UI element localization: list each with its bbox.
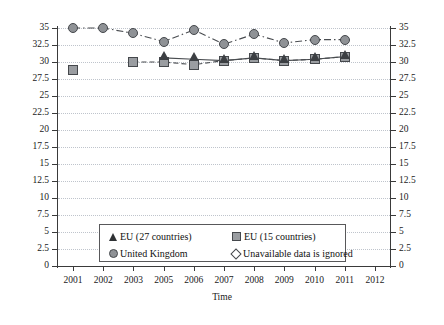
y-axis-tick-label-left: 12.5 [32, 176, 49, 186]
chart-container: 353532.532.5303027.527.5252522.522.52020… [0, 0, 444, 325]
legend-label-uk: United Kingdom [120, 248, 188, 259]
y-axis-tick-label-left: 20 [40, 125, 50, 135]
y-tick-right [391, 232, 396, 233]
x-tick [375, 267, 376, 271]
legend-entry-uk: United Kingdom [106, 248, 229, 259]
y-tick-right [391, 28, 396, 29]
y-tick-right [391, 215, 396, 216]
y-axis-tick-label-left: 2.5 [37, 244, 49, 254]
y-tick-right [391, 181, 396, 182]
legend-label-eu15: EU (15 countries) [244, 231, 316, 242]
y-axis-tick-label-right: 30 [399, 57, 409, 67]
y-axis-tick-label-right: 12.5 [399, 176, 416, 186]
y-axis-tick-label-left: 32.5 [32, 40, 49, 50]
y-tick-right [391, 79, 396, 80]
data-point-square [68, 65, 78, 75]
y-axis-tick-label-right: 5 [399, 227, 404, 237]
legend-label-unavailable: Unavailable data is ignored [243, 248, 353, 259]
data-point-square [128, 57, 138, 67]
y-tick-right [391, 62, 396, 63]
x-axis-line [57, 266, 391, 267]
y-axis-tick-label-right: 22.5 [399, 108, 416, 118]
legend-label-eu27: EU (27 countries) [120, 231, 192, 242]
data-point-circle [340, 35, 350, 45]
y-tick-right [391, 45, 396, 46]
y-tick-right [391, 130, 396, 131]
y-axis-tick-label-left: 17.5 [32, 142, 49, 152]
x-tick [254, 267, 255, 271]
data-point-triangle [249, 51, 259, 60]
y-axis-tick-label-right: 0 [399, 261, 404, 271]
y-axis-right-line [390, 26, 391, 268]
data-point-triangle [310, 52, 320, 61]
y-axis-tick-label-left: 27.5 [32, 74, 49, 84]
triangle-icon [106, 233, 120, 241]
y-axis-tick-label-left: 30 [40, 57, 50, 67]
x-axis-tick-label: 2012 [355, 276, 395, 286]
y-axis-tick-label-left: 15 [40, 159, 50, 169]
y-axis-tick-label-left: 5 [44, 227, 49, 237]
y-axis-tick-label-left: 10 [40, 193, 50, 203]
y-axis-tick-label-right: 27.5 [399, 74, 416, 84]
gridline [58, 79, 390, 80]
data-point-triangle [279, 54, 289, 63]
y-tick-right [391, 198, 396, 199]
data-point-circle [128, 28, 138, 38]
y-axis-tick-label-right: 17.5 [399, 142, 416, 152]
y-axis-tick-label-right: 7.5 [399, 210, 411, 220]
y-axis-tick-label-left: 25 [40, 91, 50, 101]
y-axis-tick-label-right: 35 [399, 23, 409, 33]
x-tick [194, 267, 195, 271]
y-axis-tick-label-left: 7.5 [37, 210, 49, 220]
gridline [58, 96, 390, 97]
y-axis-tick-label-left: 35 [40, 23, 50, 33]
y-tick-right [391, 164, 396, 165]
data-point-circle [98, 23, 108, 33]
y-axis-tick-label-right: 10 [399, 193, 409, 203]
chart-legend: EU (27 countries) EU (15 countries) Unit… [99, 224, 346, 262]
x-axis-title: Time [0, 292, 444, 302]
gridline [58, 147, 390, 148]
square-icon [230, 232, 244, 241]
x-tick [103, 267, 104, 271]
data-point-circle [279, 38, 289, 48]
y-axis-tick-label-right: 32.5 [399, 40, 416, 50]
gridline [58, 198, 390, 199]
data-point-triangle [159, 51, 169, 60]
x-tick [133, 267, 134, 271]
y-axis-tick-label-right: 25 [399, 91, 409, 101]
diamond-open-icon [229, 250, 243, 258]
y-tick-right [391, 147, 396, 148]
gridline [58, 215, 390, 216]
y-tick-right [391, 113, 396, 114]
x-tick [315, 267, 316, 271]
legend-entry-unavailable: Unavailable data is ignored [229, 248, 339, 259]
data-point-triangle [340, 50, 350, 59]
series-line [73, 28, 345, 44]
y-axis-left-line [57, 26, 58, 268]
data-point-circle [219, 39, 229, 49]
legend-row-2: United Kingdom Unavailable data is ignor… [106, 245, 339, 262]
x-tick [345, 267, 346, 271]
gridline [58, 130, 390, 131]
data-point-circle [189, 25, 199, 35]
y-axis-tick-label-right: 15 [399, 159, 409, 169]
y-axis-tick-label-left: 0 [44, 261, 49, 271]
y-axis-tick-label-right: 20 [399, 125, 409, 135]
y-axis-tick-label-right: 2.5 [399, 244, 411, 254]
x-tick [284, 267, 285, 271]
legend-entry-eu27: EU (27 countries) [106, 231, 230, 242]
data-point-triangle [219, 54, 229, 63]
data-point-circle [310, 35, 320, 45]
y-tick-right [391, 266, 396, 267]
x-tick [73, 267, 74, 271]
y-tick-right [391, 96, 396, 97]
y-axis-tick-label-left: 22.5 [32, 108, 49, 118]
x-tick [164, 267, 165, 271]
data-point-circle [68, 23, 78, 33]
circle-icon [106, 249, 120, 258]
gridline [58, 181, 390, 182]
y-tick-right [391, 249, 396, 250]
data-point-circle [249, 29, 259, 39]
gridline [58, 164, 390, 165]
